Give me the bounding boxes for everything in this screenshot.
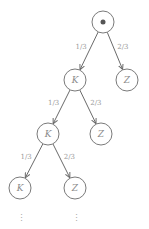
node-label: Z <box>71 183 79 193</box>
node-label: Z <box>97 129 105 139</box>
edges: 1/32/31/32/31/32/3 <box>20 32 128 178</box>
root-dot-icon <box>101 20 106 25</box>
nodes: KZKZKZ <box>9 11 138 199</box>
continuation-markers: ⋮⋮ <box>17 213 81 223</box>
node-label: K <box>44 129 53 139</box>
tree-node-z2: Z <box>90 123 112 145</box>
vertical-ellipsis-icon: ⋮ <box>72 213 81 223</box>
tree-node-z1: Z <box>116 69 138 91</box>
tree-node-k3: K <box>9 177 31 199</box>
probability-tree-diagram: 1/32/31/32/31/32/3 KZKZKZ ⋮⋮ <box>0 0 149 229</box>
vertical-ellipsis-icon: ⋮ <box>17 213 26 223</box>
edge-probability-label: 2/3 <box>90 99 101 107</box>
tree-node-k1: K <box>64 69 86 91</box>
edge-probability-label: 2/3 <box>64 153 75 161</box>
node-label: K <box>71 75 80 85</box>
edge-probability-label: 1/3 <box>75 43 86 51</box>
node-label: K <box>16 183 25 193</box>
node-label: Z <box>123 75 131 85</box>
edge-probability-label: 1/3 <box>48 99 59 107</box>
root-node <box>92 11 114 33</box>
tree-node-k2: K <box>37 123 59 145</box>
edge-probability-label: 2/3 <box>117 43 128 51</box>
edge-probability-label: 1/3 <box>20 153 31 161</box>
tree-node-z3: Z <box>64 177 86 199</box>
